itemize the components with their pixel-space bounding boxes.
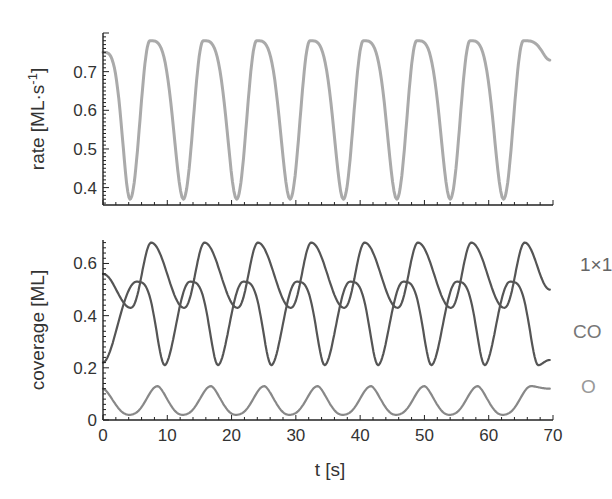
- rate-line: [103, 41, 550, 200]
- y-tick-label: 0.2: [73, 359, 97, 378]
- series-co-line: [103, 282, 550, 366]
- series-label-1x1: 1×1: [580, 254, 612, 275]
- top-y-axis-title: rate [ML·s-1]: [25, 68, 48, 170]
- x-tick-label: 0: [98, 426, 107, 445]
- bottom-panel: 00.20.40.6010203040506070 coverage [ML] …: [27, 240, 612, 480]
- series-label-co: CO: [573, 321, 602, 342]
- x-tick-label: 60: [479, 426, 498, 445]
- series-1x1-line: [103, 243, 550, 308]
- y-tick-label: 0.7: [73, 63, 97, 82]
- x-tick-label: 40: [351, 426, 370, 445]
- x-tick-label: 20: [222, 426, 241, 445]
- x-tick-label: 70: [544, 426, 563, 445]
- x-tick-label: 10: [158, 426, 177, 445]
- x-tick-label: 30: [286, 426, 305, 445]
- top-panel: 0.40.50.60.7 rate [ML·s-1]: [25, 33, 553, 205]
- x-axis-title: t [s]: [315, 459, 346, 480]
- x-tick-label: 50: [415, 426, 434, 445]
- y-tick-label: 0.4: [73, 179, 97, 198]
- y-tick-label: 0.5: [73, 140, 97, 159]
- y-tick-label: 0.6: [73, 101, 97, 120]
- figure: 0.40.50.60.7 rate [ML·s-1] 00.20.40.6010…: [0, 0, 612, 499]
- coverage-curve-group: [103, 243, 550, 415]
- rate-curve-group: [103, 41, 550, 200]
- y-tick-label: 0.4: [73, 307, 97, 326]
- series-o-line: [103, 386, 550, 415]
- series-label-o: O: [581, 376, 596, 397]
- y-tick-label: 0.6: [73, 254, 97, 273]
- bottom-y-axis-title: coverage [ML]: [27, 270, 48, 390]
- y-tick-label: 0: [88, 411, 97, 430]
